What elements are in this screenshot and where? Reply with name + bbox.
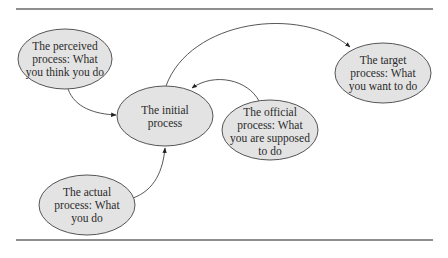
- node-actual-line-1: The actual: [63, 186, 111, 198]
- node-actual-line-3: you do: [71, 212, 103, 225]
- node-initial: The initial process: [117, 86, 213, 146]
- edge-actual-to-initial: [133, 148, 165, 198]
- node-official-line-1: The official: [243, 106, 297, 118]
- node-perceived: The perceived process: What you think yo…: [18, 29, 112, 89]
- node-perceived-line-2: process: What: [32, 53, 98, 66]
- node-actual-line-2: process: What: [54, 199, 120, 212]
- edge-initial-to-target: [166, 23, 350, 86]
- node-initial-line-2: process: [148, 117, 183, 130]
- node-target: The target process: What you want to do: [335, 43, 431, 103]
- node-official-line-4: to do: [258, 145, 282, 157]
- node-official-line-2: process: What: [237, 119, 303, 132]
- edge-perceived-to-initial: [68, 89, 116, 115]
- node-target-line-2: process: What: [350, 67, 416, 80]
- node-target-line-1: The target: [360, 54, 408, 67]
- node-official-line-3: you are supposed: [230, 132, 310, 145]
- node-initial-line-1: The initial: [141, 104, 189, 116]
- node-official: The official process: What you are suppo…: [222, 100, 318, 160]
- node-actual: The actual process: What you do: [39, 175, 135, 235]
- node-target-line-3: you want to do: [349, 80, 418, 93]
- node-perceived-line-3: you think you do: [26, 66, 105, 79]
- node-perceived-line-1: The perceived: [32, 40, 98, 53]
- process-diagram: The perceived process: What you think yo…: [0, 0, 448, 258]
